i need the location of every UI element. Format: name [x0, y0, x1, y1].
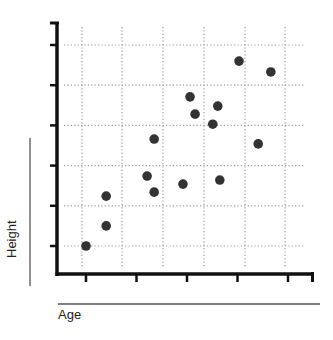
data-point — [149, 134, 159, 144]
data-point — [190, 109, 200, 119]
scatter-chart — [0, 0, 333, 340]
y-axis-label: Height — [4, 220, 19, 258]
grid-lines — [64, 27, 304, 267]
data-point — [101, 221, 111, 231]
data-point — [142, 171, 152, 181]
data-points — [81, 56, 275, 251]
data-point — [185, 92, 195, 102]
data-point — [266, 67, 276, 77]
data-point — [253, 139, 263, 149]
data-point — [81, 241, 91, 251]
data-point — [101, 191, 111, 201]
x-axis-label: Age — [58, 307, 81, 322]
data-point — [234, 56, 244, 66]
data-point — [208, 119, 218, 129]
data-point — [215, 175, 225, 185]
data-point — [213, 101, 223, 111]
data-point — [149, 187, 159, 197]
data-point — [178, 179, 188, 189]
